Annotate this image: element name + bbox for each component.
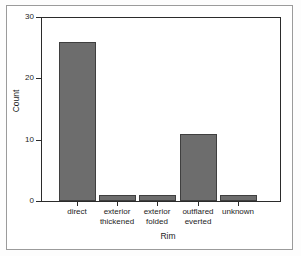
y-tick-label-wrap: 10 [0, 136, 34, 144]
bar-outflared-everted[interactable] [180, 134, 217, 201]
x-tick-label-unknown: unknown [203, 207, 273, 217]
y-tick-label-0: 0 [6, 197, 34, 205]
y-tick-label-wrap: 30 [0, 13, 34, 21]
bar-direct[interactable] [59, 42, 96, 201]
bar-exterior-folded[interactable] [139, 195, 176, 201]
x-tick-mark-exterior-thickened [117, 202, 118, 206]
y-tick-label-30: 30 [6, 13, 34, 21]
y-tick-label-wrap: 0 [0, 197, 34, 205]
x-tick-label-line: everted [163, 217, 233, 227]
chart-figure: 30 20 10 0 Count direct exterior thicken… [0, 0, 301, 256]
y-tick-label-10: 10 [6, 136, 34, 144]
x-tick-mark-outflared-everted [198, 202, 199, 206]
bar-unknown[interactable] [220, 195, 257, 201]
plot-area [42, 18, 280, 201]
x-axis-title: Rim [98, 231, 238, 241]
x-tick-mark-direct [77, 202, 78, 206]
x-tick-label-line: unknown [203, 207, 273, 217]
bar-exterior-thickened[interactable] [99, 195, 136, 201]
x-tick-mark-unknown [238, 202, 239, 206]
y-axis-title: Count [11, 71, 21, 131]
x-tick-mark-exterior-folded [157, 202, 158, 206]
